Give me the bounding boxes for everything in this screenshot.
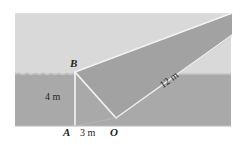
figure-canvas	[0, 0, 248, 145]
point-label-A: A	[63, 127, 70, 138]
point-label-B: B	[70, 58, 77, 69]
geometry-figure: B A O 4 m 3 m 12 m	[0, 0, 248, 145]
dimension-label-height: 4 m	[45, 92, 60, 102]
point-label-O: O	[110, 127, 118, 138]
dimension-label-base: 3 m	[80, 128, 95, 138]
